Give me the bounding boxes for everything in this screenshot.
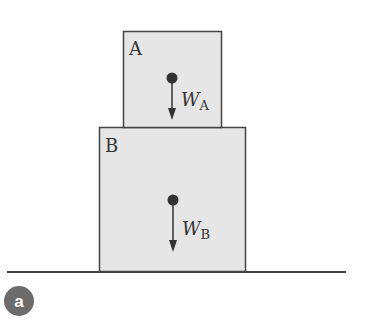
block-b: B WB xyxy=(100,128,246,272)
block-a-label: A xyxy=(128,38,143,59)
free-body-diagram: B WB A WA a xyxy=(0,0,372,321)
panel-badge: a xyxy=(4,286,34,316)
panel-label: a xyxy=(14,292,24,311)
block-b-label: B xyxy=(105,135,118,156)
block-a: A WA xyxy=(124,32,222,128)
